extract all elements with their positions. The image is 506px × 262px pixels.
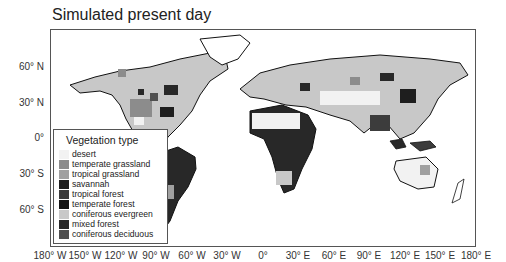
- legend-item-coniferous-deciduous: coniferous deciduous: [59, 230, 153, 239]
- x-tick: 150° W: [69, 250, 102, 261]
- x-tick: 0°: [258, 250, 268, 261]
- x-tick: 120° E: [390, 250, 420, 261]
- y-tick-60n: 60° N: [0, 61, 44, 72]
- x-tick: 60° E: [322, 250, 347, 261]
- x-tick: 30° W: [213, 250, 240, 261]
- legend: Vegetation type desert temperate grassla…: [53, 129, 168, 244]
- legend-item-tropical-forest: tropical forest: [59, 190, 124, 199]
- legend-item-coniferous-evergreen: coniferous evergreen: [59, 210, 153, 219]
- legend-item-tropical-grassland: tropical grassland: [59, 170, 139, 179]
- x-tick: 90° W: [142, 250, 169, 261]
- legend-item-desert: desert: [59, 150, 96, 159]
- legend-item-savannah: savannah: [59, 180, 109, 189]
- x-tick: 150° E: [425, 250, 455, 261]
- x-tick: 180° E: [461, 250, 491, 261]
- x-tick: 30° E: [286, 250, 311, 261]
- legend-title: Vegetation type: [66, 134, 138, 146]
- x-tick: 180° W: [34, 250, 67, 261]
- x-tick: 90° E: [357, 250, 382, 261]
- legend-item-temperate-grassland: temperate grassland: [59, 160, 150, 169]
- y-tick-0: 0°: [0, 132, 44, 143]
- y-tick-60s: 60° S: [0, 204, 44, 215]
- chart-title: Simulated present day: [52, 6, 211, 24]
- legend-item-temperate-forest: temperate forest: [59, 200, 135, 209]
- legend-item-mixed-forest: mixed forest: [59, 220, 119, 229]
- x-tick: 120° W: [105, 250, 138, 261]
- x-tick: 60° W: [178, 250, 205, 261]
- y-tick-30n: 30° N: [0, 97, 44, 108]
- y-tick-30s: 30° S: [0, 168, 44, 179]
